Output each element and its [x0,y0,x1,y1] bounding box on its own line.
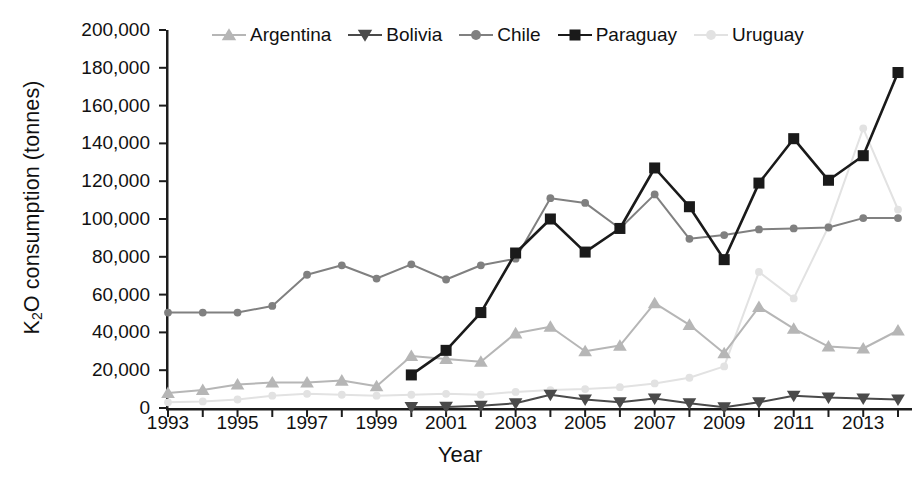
data-point-chile-2001 [442,276,450,284]
series-uruguay [164,124,902,406]
data-point-paraguay-2002 [475,307,486,318]
x-axis-tick [619,410,621,417]
series-line-paraguay [411,73,898,375]
data-point-argentina-2011 [787,322,801,334]
data-point-uruguay-1998 [338,391,346,399]
data-point-chile-2013 [859,214,867,222]
data-point-chile-1999 [373,275,381,283]
data-point-chile-2000 [407,260,415,268]
data-point-chile-1996 [268,302,276,310]
data-point-uruguay-2000 [407,391,415,399]
data-point-paraguay-2009 [719,254,730,265]
data-point-uruguay-2009 [720,363,728,371]
data-point-uruguay-2007 [651,380,659,388]
data-point-paraguay-2011 [788,133,799,144]
x-axis-tick [306,410,308,417]
data-point-paraguay-2012 [823,175,834,186]
data-point-uruguay-2002 [477,391,485,399]
series-line-uruguay [168,128,898,402]
x-axis-tick [897,410,899,417]
data-point-argentina-2014 [891,324,905,336]
y-axis-tick [159,331,166,333]
x-axis-tick [827,410,829,417]
data-point-chile-2005 [581,199,589,207]
data-point-paraguay-2004 [545,213,556,224]
data-point-uruguay-2005 [581,385,589,393]
data-point-chile-1993 [164,309,172,317]
x-axis-tick [341,410,343,417]
data-point-uruguay-1996 [268,392,276,400]
chart-container: K2O consumption (tonnes) 200,000180,0001… [0,0,920,485]
x-axis-tick [549,410,551,417]
data-point-argentina-2007 [648,297,662,309]
x-axis-tick [862,410,864,417]
y-axis-tick [159,369,166,371]
data-point-chile-2014 [894,214,902,222]
data-point-paraguay-2013 [858,150,869,161]
data-point-uruguay-2006 [616,383,624,391]
data-point-chile-2009 [720,231,728,239]
data-point-chile-1998 [338,261,346,269]
data-point-argentina-2004 [544,320,558,332]
series-argentina [161,297,905,398]
y-axis-tick [159,218,166,220]
data-point-paraguay-2006 [614,223,625,234]
y-axis-tick [159,142,166,144]
data-point-uruguay-1999 [373,392,381,400]
data-point-chile-2011 [790,225,798,233]
data-point-uruguay-2011 [790,294,798,302]
data-point-argentina-2012 [822,340,836,352]
y-axis-tick [159,256,166,258]
plot-area [0,0,920,485]
y-axis-tick [159,294,166,296]
x-axis-tick [515,410,517,417]
data-point-chile-1995 [234,309,242,317]
data-point-paraguay-2005 [580,247,591,258]
x-axis-tick [202,410,204,417]
y-axis-tick [159,407,166,409]
x-axis-tick [271,410,273,417]
data-point-paraguay-2008 [684,201,695,212]
data-point-chile-2002 [477,261,485,269]
data-point-uruguay-2013 [859,124,867,132]
y-axis-tick [159,180,166,182]
data-point-paraguay-2001 [441,345,452,356]
data-point-uruguay-1997 [303,390,311,398]
data-point-uruguay-2014 [894,206,902,214]
data-point-paraguay-2014 [892,67,903,78]
y-axis-tick [159,105,166,107]
data-point-uruguay-2003 [512,388,520,396]
data-point-uruguay-2008 [686,374,694,382]
data-point-chile-2008 [686,235,694,243]
y-axis-line [166,30,169,410]
x-axis-tick [758,410,760,417]
data-point-uruguay-1994 [199,397,207,405]
data-point-paraguay-2000 [406,369,417,380]
data-point-chile-2007 [651,191,659,199]
data-point-chile-1997 [303,271,311,279]
x-axis-tick [237,410,239,417]
data-point-argentina-2008 [683,318,697,330]
series-line-argentina [168,303,898,393]
data-point-uruguay-2010 [755,268,763,276]
data-point-chile-1994 [199,309,207,317]
x-axis-tick [167,410,169,417]
data-point-uruguay-2001 [442,390,450,398]
data-point-chile-2004 [546,194,554,202]
data-point-uruguay-1993 [164,398,172,406]
data-point-bolivia-2006 [613,397,627,409]
x-axis-line [166,408,912,411]
data-point-chile-2010 [755,225,763,233]
x-axis-tick [793,410,795,417]
data-point-bolivia-2009 [717,402,731,414]
data-point-paraguay-2007 [649,162,660,173]
data-point-paraguay-2003 [510,248,521,259]
data-point-argentina-2010 [752,300,766,312]
data-point-uruguay-1995 [234,396,242,404]
y-axis-tick [159,67,166,69]
x-axis-tick [584,410,586,417]
x-axis-tick [376,410,378,417]
x-axis-tick [654,410,656,417]
x-axis-tick [688,410,690,417]
data-point-paraguay-2010 [753,178,764,189]
